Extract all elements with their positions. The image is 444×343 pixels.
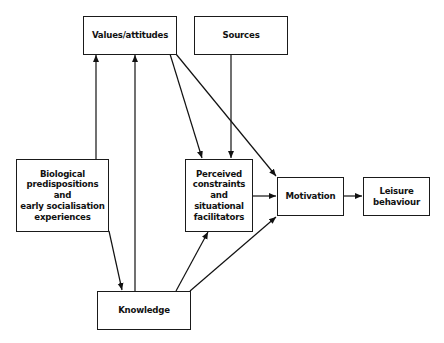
node-motivation: Motivation: [277, 177, 344, 216]
node-values-attitudes: Values/attitudes: [83, 16, 177, 55]
node-label: Sources: [222, 30, 259, 41]
node-sources: Sources: [194, 16, 288, 55]
node-label: Biological predispositions and early soc…: [20, 169, 104, 223]
node-label: Perceived constraints and situational fa…: [193, 169, 245, 223]
node-perceived-constraints: Perceived constraints and situational fa…: [185, 159, 253, 232]
edge-values-perceived: [170, 54, 202, 158]
node-leisure-behaviour: Leisure behaviour: [363, 177, 430, 216]
edge-knowledge-perceived: [176, 232, 208, 291]
node-knowledge: Knowledge: [97, 291, 191, 330]
node-biological: Biological predispositions and early soc…: [16, 159, 109, 232]
edge-biological-knowledge: [109, 231, 122, 290]
node-label: Knowledge: [118, 305, 170, 316]
node-label: Values/attitudes: [92, 30, 168, 41]
edge-values-motivation: [176, 54, 276, 176]
node-label: Motivation: [286, 191, 336, 202]
node-label: Leisure behaviour: [373, 186, 420, 207]
